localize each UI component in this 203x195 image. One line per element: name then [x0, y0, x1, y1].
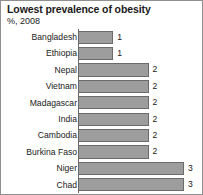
bar-value-label: 2: [153, 145, 158, 158]
bar[interactable]: [78, 145, 149, 158]
bar-row: Ethiopia 1: [1, 45, 202, 61]
chart-inner: Lowest prevalence of obesity %, 2008 Ban…: [1, 1, 202, 194]
bar[interactable]: [78, 63, 149, 76]
bar-track: 2: [78, 145, 198, 158]
bar-track: 1: [78, 31, 198, 44]
chart-title: Lowest prevalence of obesity: [7, 3, 197, 15]
bar-row: Bangladesh 1: [1, 29, 202, 45]
bar-row: Niger 3: [1, 160, 202, 176]
bar-value-label: 2: [153, 80, 158, 93]
bar-row: Nepal 2: [1, 62, 202, 78]
category-label: Vietnam: [46, 78, 77, 94]
bar[interactable]: [78, 129, 149, 142]
bar[interactable]: [78, 113, 149, 126]
bar-track: 3: [78, 178, 198, 191]
category-label: Madagascar: [30, 95, 77, 111]
category-label: Nepal: [55, 62, 77, 78]
bar-row: Vietnam 2: [1, 78, 202, 94]
category-label: Ethiopia: [46, 45, 77, 61]
bar[interactable]: [78, 31, 113, 44]
chart-card: Lowest prevalence of obesity %, 2008 Ban…: [0, 0, 203, 195]
bar-row: Burkina Faso 2: [1, 144, 202, 160]
bar-value-label: 3: [188, 162, 193, 175]
bar[interactable]: [78, 162, 184, 175]
bar-value-label: 2: [153, 113, 158, 126]
category-label: Niger: [56, 160, 77, 176]
plot-area: Bangladesh 1 Ethiopia 1 Nepal 2: [1, 29, 202, 193]
bar-track: 2: [78, 80, 198, 93]
bar-value-label: 1: [117, 31, 122, 44]
bar-track: 1: [78, 47, 198, 60]
bar-row: Madagascar 2: [1, 95, 202, 111]
category-label: Bangladesh: [32, 29, 77, 45]
title-block: Lowest prevalence of obesity %, 2008: [7, 3, 197, 27]
bar-value-label: 2: [153, 129, 158, 142]
chart-subtitle: %, 2008: [7, 16, 197, 27]
category-label: Cambodia: [38, 127, 77, 143]
bar-track: 2: [78, 63, 198, 76]
bar[interactable]: [78, 80, 149, 93]
category-label: Burkina Faso: [26, 144, 77, 160]
bar-track: 2: [78, 129, 198, 142]
bar-value-label: 3: [188, 178, 193, 191]
bar-value-label: 1: [117, 47, 122, 60]
bar-track: 2: [78, 96, 198, 109]
bar[interactable]: [78, 178, 184, 191]
bar-track: 2: [78, 113, 198, 126]
category-label: India: [58, 111, 77, 127]
bar[interactable]: [78, 47, 113, 60]
bar-row: Chad 3: [1, 177, 202, 193]
bar-track: 3: [78, 162, 198, 175]
bar-value-label: 2: [153, 96, 158, 109]
bar-row: Cambodia 2: [1, 127, 202, 143]
bar-row: India 2: [1, 111, 202, 127]
bar-value-label: 2: [153, 63, 158, 76]
category-label: Chad: [56, 177, 77, 193]
bar[interactable]: [78, 96, 149, 109]
